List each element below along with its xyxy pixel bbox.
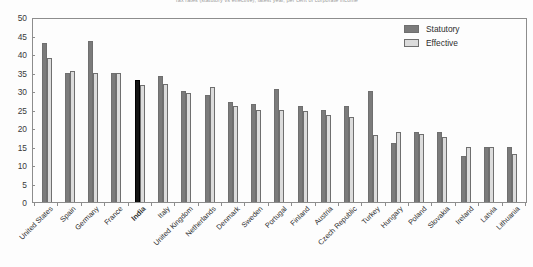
bar-effective[interactable] xyxy=(442,137,447,202)
x-axis-label: Slovakia xyxy=(427,205,452,230)
x-axis-label: Spain xyxy=(59,205,78,224)
bar-effective[interactable] xyxy=(93,73,98,203)
bar-effective[interactable] xyxy=(186,93,191,202)
y-axis-tick-label: 50 xyxy=(1,14,27,22)
y-axis-tick-mark xyxy=(32,111,35,112)
y-axis-tick-label: 0 xyxy=(1,199,27,207)
bar-effective[interactable] xyxy=(47,58,52,202)
bar-group[interactable] xyxy=(291,19,314,202)
y-axis-tick-label: 30 xyxy=(1,88,27,96)
bar-group[interactable] xyxy=(245,19,268,202)
y-axis-tick-mark xyxy=(32,148,35,149)
chart-figure: Tax rates (statutory vs effective), late… xyxy=(0,0,533,267)
bar-group[interactable] xyxy=(58,19,81,202)
y-axis-tick-label: 10 xyxy=(1,162,27,170)
x-axis-label: Ireland xyxy=(454,205,475,226)
bar-group[interactable] xyxy=(151,19,174,202)
x-axis-label: Finland xyxy=(289,205,312,228)
x-axis-label: Lithuania xyxy=(495,205,522,232)
bar-effective[interactable] xyxy=(349,117,354,202)
bar-group[interactable] xyxy=(128,19,151,202)
y-axis-tick-mark xyxy=(32,92,35,93)
bar-group[interactable] xyxy=(35,19,58,202)
y-axis-tick-label: 25 xyxy=(1,107,27,115)
bar-group[interactable] xyxy=(82,19,105,202)
y-axis-tick-label: 15 xyxy=(1,144,27,152)
bar-effective[interactable] xyxy=(326,115,331,202)
legend-item-effective[interactable]: Effective xyxy=(404,36,510,50)
bar-effective[interactable] xyxy=(303,111,308,202)
bar-effective[interactable] xyxy=(210,87,215,202)
y-axis-tick-label: 5 xyxy=(1,181,27,189)
bar-effective[interactable] xyxy=(140,85,145,202)
legend-label-effective: Effective xyxy=(426,38,458,48)
x-axis-label: Italy xyxy=(156,205,171,220)
bar-group[interactable] xyxy=(105,19,128,202)
bar-effective[interactable] xyxy=(116,73,121,203)
x-axis-label: Sweden xyxy=(240,205,264,229)
bar-effective[interactable] xyxy=(70,71,75,202)
bar-effective[interactable] xyxy=(419,134,424,202)
bar-effective[interactable] xyxy=(466,147,471,203)
x-axis-label: Portugal xyxy=(263,205,288,230)
y-axis-tick-mark xyxy=(32,55,35,56)
y-axis-tick-label: 20 xyxy=(1,125,27,133)
legend-swatch-statutory xyxy=(404,25,419,33)
bar-effective[interactable] xyxy=(233,106,238,202)
x-axis-label: France xyxy=(103,205,125,227)
x-axis-label: Latvia xyxy=(479,205,498,224)
x-axis-label: Denmark xyxy=(215,205,242,232)
x-axis-labels: United StatesSpainGermanyFranceIndiaItal… xyxy=(32,205,527,267)
y-axis-tick-label: 45 xyxy=(1,33,27,41)
bar-group[interactable] xyxy=(338,19,361,202)
bar-effective[interactable] xyxy=(512,154,517,202)
bar-effective[interactable] xyxy=(489,147,494,203)
chart-legend: Statutory Effective xyxy=(404,22,510,50)
bar-effective[interactable] xyxy=(163,84,168,202)
y-axis-tick-mark xyxy=(32,74,35,75)
legend-swatch-effective xyxy=(404,39,419,47)
x-axis-label: United States xyxy=(18,205,55,242)
y-axis-tick-label: 40 xyxy=(1,51,27,59)
bar-effective[interactable] xyxy=(396,132,401,202)
bar-effective[interactable] xyxy=(373,135,378,202)
y-axis-tick-mark xyxy=(32,37,35,38)
y-axis-tick-mark xyxy=(32,185,35,186)
bar-group[interactable] xyxy=(314,19,337,202)
bar-effective[interactable] xyxy=(256,110,261,203)
x-axis-label: Hungary xyxy=(380,205,405,230)
x-axis-label: Germany xyxy=(74,205,101,232)
y-axis-tick-mark xyxy=(32,166,35,167)
bar-group[interactable] xyxy=(361,19,384,202)
legend-label-statutory: Statutory xyxy=(426,24,460,34)
bar-group[interactable] xyxy=(198,19,221,202)
bar-group[interactable] xyxy=(175,19,198,202)
legend-item-statutory[interactable]: Statutory xyxy=(404,22,510,36)
bar-group[interactable] xyxy=(221,19,244,202)
y-axis-tick-label: 35 xyxy=(1,70,27,78)
bar-group[interactable] xyxy=(268,19,291,202)
y-axis-tick-mark xyxy=(32,129,35,130)
x-axis-label: India xyxy=(130,205,148,223)
chart-title: Tax rates (statutory vs effective), late… xyxy=(0,0,533,4)
bar-effective[interactable] xyxy=(279,110,284,203)
